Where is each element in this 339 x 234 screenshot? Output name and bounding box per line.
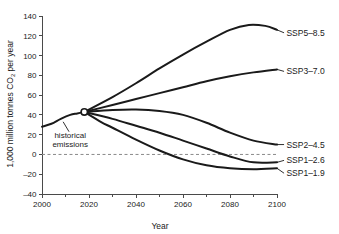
y-tick-label: –20	[23, 170, 37, 179]
y-tick-label: 40	[28, 111, 37, 120]
label-leader-ssp1-1-9	[277, 168, 284, 173]
chart-annotations: historicalemissions	[52, 122, 88, 149]
series-line-ssp5-8-5	[84, 25, 277, 112]
series-label-ssp1-1-9: SSP1–1.9	[286, 168, 325, 178]
y-tick-label: 60	[28, 91, 37, 100]
annotation-text-line: historical	[54, 131, 86, 140]
y-axis-title-after: per year	[5, 40, 15, 74]
branch-point-marker	[81, 109, 87, 115]
y-tick-label: 20	[28, 131, 37, 140]
chart-container: –40–20020406080100120140 200020202040206…	[0, 0, 339, 234]
series-label-ssp2-4-5: SSP2–4.5	[286, 140, 325, 150]
y-tick-label: –40	[23, 190, 37, 199]
y-tick-label: 120	[23, 32, 37, 41]
axes	[42, 16, 277, 194]
x-tick-label: 2040	[127, 200, 145, 209]
x-tick-label: 2020	[80, 200, 98, 209]
y-axis-ticks: –40–20020406080100120140	[23, 12, 42, 199]
label-leader-ssp1-2-6	[277, 160, 284, 162]
branch-point-dot	[81, 109, 87, 115]
y-axis-title-before: 1,000 million tonnes CO	[5, 77, 15, 168]
series-line-ssp3-7-0	[84, 69, 277, 112]
series-label-ssp3-7-0: SSP3–7.0	[286, 66, 325, 76]
label-leader-ssp5-8-5	[277, 30, 284, 33]
series-line-ssp1-2-6	[84, 112, 277, 163]
x-axis-title: Year	[151, 221, 168, 231]
x-tick-label: 2100	[268, 200, 286, 209]
annotation-text-line: emissions	[52, 140, 88, 149]
label-leader-ssp3-7-0	[277, 69, 284, 71]
y-tick-label: 80	[28, 71, 37, 80]
x-tick-label: 2080	[221, 200, 239, 209]
y-tick-label: 100	[23, 52, 37, 61]
y-tick-label: 140	[23, 12, 37, 21]
emissions-scenarios-chart: –40–20020406080100120140 200020202040206…	[0, 0, 339, 234]
series-label-ssp5-8-5: SSP5–8.5	[286, 28, 325, 38]
historical-emissions-line	[42, 112, 84, 127]
y-axis-title: 1,000 million tonnes CO2 per year	[5, 40, 16, 168]
x-tick-label: 2060	[174, 200, 192, 209]
series-lines	[84, 25, 277, 170]
historical-line	[42, 112, 84, 127]
x-axis-ticks: 200020202040206020802100	[33, 194, 286, 209]
y-tick-label: 0	[32, 150, 37, 159]
x-tick-label: 2000	[33, 200, 51, 209]
series-label-ssp1-2-6: SSP1–2.6	[286, 155, 325, 165]
series-labels: SSP5–8.5SSP3–7.0SSP2–4.5SSP1–2.6SSP1–1.9	[277, 28, 325, 178]
